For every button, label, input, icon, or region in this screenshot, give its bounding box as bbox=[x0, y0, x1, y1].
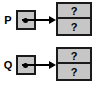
arrow-line bbox=[22, 64, 50, 66]
pointer-diagram: P ? ? Q ? ? bbox=[0, 0, 96, 91]
pointer-group-p: P ? ? bbox=[0, 2, 96, 38]
arrow-right-icon bbox=[22, 63, 56, 68]
node-cell-value: ? bbox=[58, 19, 90, 34]
arrow-head bbox=[49, 16, 56, 24]
pointer-label-q: Q bbox=[2, 58, 14, 72]
arrow-head bbox=[49, 61, 56, 69]
node-cell-value: ? bbox=[58, 49, 90, 64]
arrow-right-icon bbox=[22, 18, 56, 23]
node-cell-value: ? bbox=[58, 64, 90, 79]
node-p: ? ? bbox=[56, 2, 92, 36]
pointer-label-p: P bbox=[2, 13, 14, 27]
node-q: ? ? bbox=[56, 47, 92, 81]
pointer-group-q: Q ? ? bbox=[0, 47, 96, 83]
node-cell-value: ? bbox=[58, 4, 90, 19]
arrow-line bbox=[22, 19, 50, 21]
